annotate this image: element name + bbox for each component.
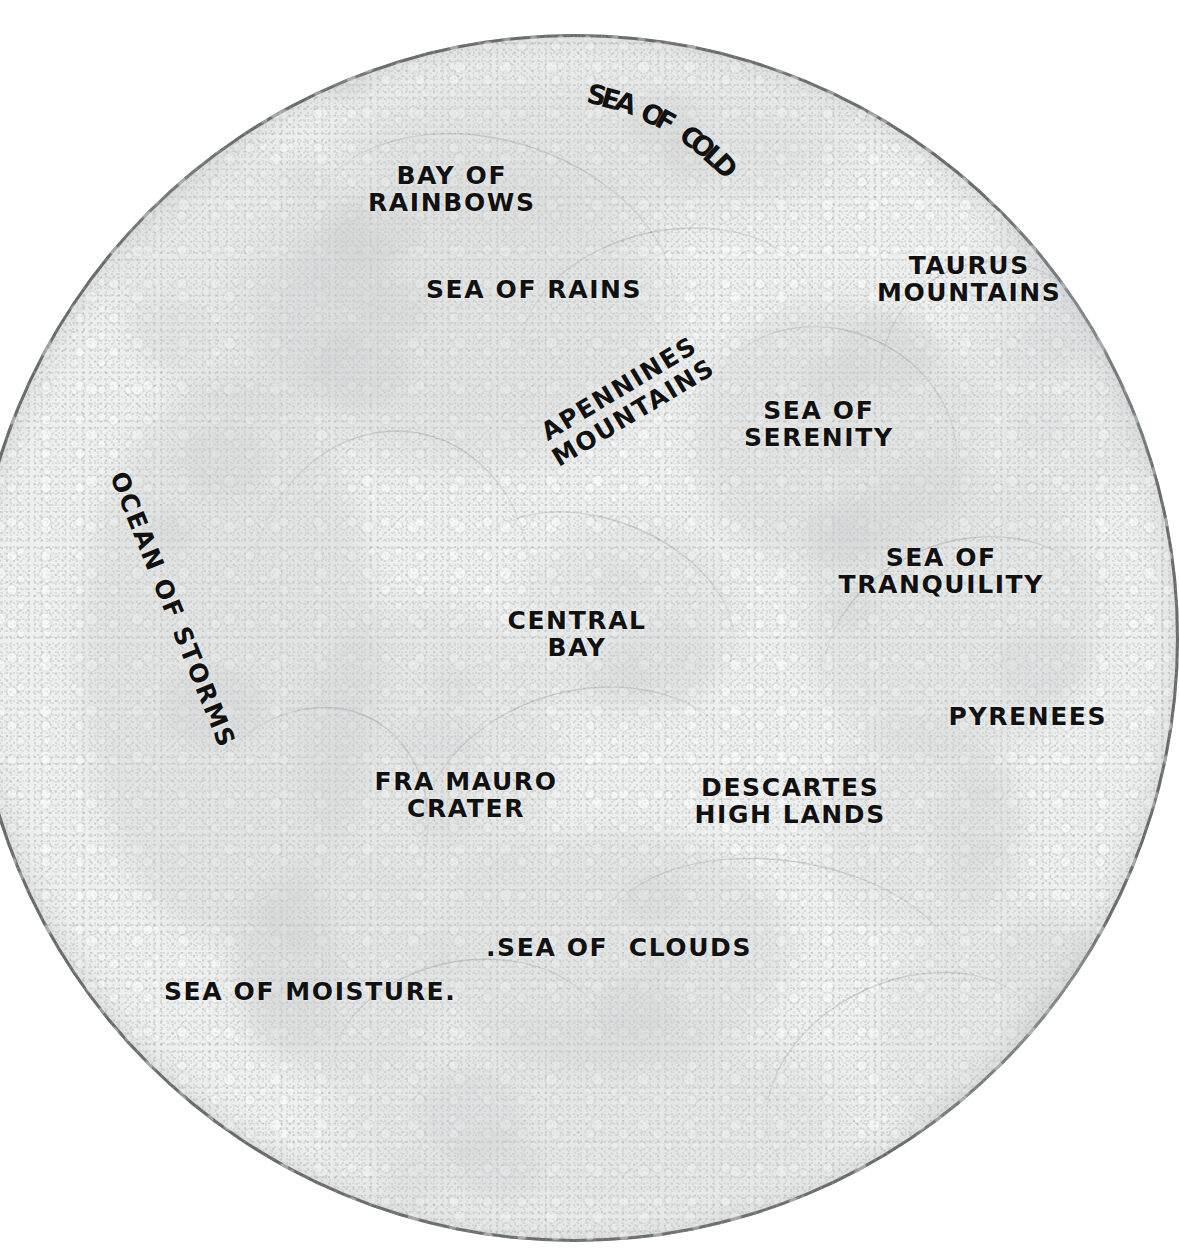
mare-patch [385, 1159, 440, 1203]
label-line: SEA OF MOISTURE. [164, 978, 456, 1006]
map-label-fra-mauro-crater: FRA MAUROCRATER [375, 768, 558, 823]
label-line: SEA OF RAINS [426, 276, 642, 304]
map-label-bay-of-rainbows: BAY OFRAINBOWS [368, 162, 536, 217]
label-line: PYRENEES [949, 703, 1108, 731]
map-label-sea-of-tranquility: SEA OFTRANQUILITY [839, 544, 1044, 599]
mare-patch [929, 788, 1025, 865]
map-label-central-bay: CENTRALBAY [508, 607, 647, 662]
mare-patch [330, 70, 370, 102]
label-line: .SEA OF CLOUDS [486, 934, 752, 962]
label-line: CENTRAL [508, 607, 647, 635]
label-line: SEA OF [839, 544, 1044, 572]
map-label-sea-of-serenity: SEA OFSERENITY [744, 397, 894, 452]
label-line: TAURUS [877, 252, 1061, 280]
map-label-descartes-highlands: DESCARTESHIGH LANDS [695, 774, 886, 829]
mare-patch [133, 301, 212, 364]
label-line: HIGH LANDS [695, 801, 886, 829]
map-label-pyrenees: PYRENEES [949, 703, 1108, 731]
label-line: TRANQUILITY [839, 571, 1044, 599]
map-label-sea-of-clouds: .SEA OF CLOUDS [486, 934, 752, 962]
label-line: MOUNTAINS [877, 279, 1061, 307]
map-label-taurus-mountains: TAURUSMOUNTAINS [877, 252, 1061, 307]
label-line: SEA OF [744, 397, 894, 425]
label-line: SERENITY [744, 424, 894, 452]
label-line: RAINBOWS [368, 189, 536, 217]
label-line: BAY OF [368, 162, 536, 190]
label-line: CRATER [375, 795, 558, 823]
map-label-sea-of-moisture: SEA OF MOISTURE. [164, 978, 456, 1006]
mare-patch [181, 427, 267, 496]
label-line: DESCARTES [695, 774, 886, 802]
label-line: FRA MAURO [375, 768, 558, 796]
map-label-sea-of-rains: SEA OF RAINS [426, 276, 642, 304]
label-line: BAY [508, 634, 647, 662]
